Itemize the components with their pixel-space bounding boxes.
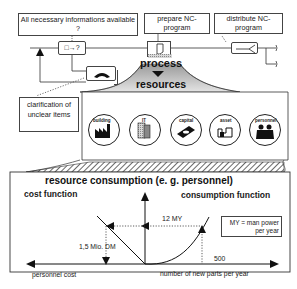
resource-icons: building IT capital asset personnel: [85, 114, 285, 154]
distribute-symbol: [231, 42, 258, 54]
down-arrow-icon: [152, 71, 164, 77]
resource-label: personnel: [255, 118, 277, 123]
consumption-function-label: consumption function: [181, 190, 270, 200]
resource-capital: capital: [170, 114, 202, 146]
process-label: process: [140, 57, 182, 69]
parts-value: 500: [214, 255, 225, 262]
distribute-box: distribute NC-program: [214, 13, 283, 34]
phone-box: [86, 66, 116, 81]
consumption-title: resource consumption (e. g. personnel): [45, 175, 233, 186]
my-value: 12 MY: [162, 215, 182, 222]
clarification-box: clarification of unclear items: [19, 97, 79, 132]
resource-label: asset: [220, 118, 232, 123]
question-box: All necessary informations available ?: [18, 13, 138, 36]
nc-program-box: [147, 41, 171, 57]
x-axis-right-label: number of new parts per year: [160, 270, 249, 277]
cost-function-label: cost function: [24, 189, 77, 199]
phone-box-shadow: [114, 70, 118, 85]
phone-icon: [87, 67, 117, 82]
legend-box: MY = man power per year: [221, 216, 282, 237]
decision-box: □→?: [58, 41, 86, 55]
resource-label: capital: [179, 118, 193, 123]
resource-personnel: personnel: [249, 114, 281, 146]
cost-value: 1,5 Mio. DM: [79, 243, 116, 250]
split-icon: [232, 43, 259, 55]
resource-building: building: [88, 114, 120, 146]
document-icon: [148, 42, 172, 58]
resource-label: building: [93, 118, 111, 123]
prepare-box: prepare NC-program: [144, 13, 210, 34]
resource-it: IT: [129, 114, 161, 146]
resource-asset: asset: [209, 114, 241, 146]
x-axis-left-label: personnel cost: [32, 271, 76, 278]
resource-label: IT: [142, 118, 146, 123]
resources-label: resources: [136, 78, 186, 90]
